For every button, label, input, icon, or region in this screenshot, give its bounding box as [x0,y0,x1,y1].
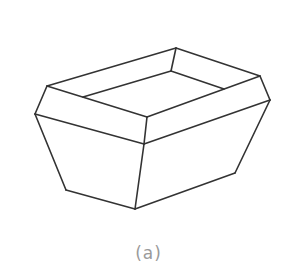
edge-inner_back-inner_right [171,71,224,89]
edge-front_top-front_mid [144,117,147,144]
figure-caption: (a) [0,243,297,263]
edge-bottom_front-bottom_right [135,173,235,209]
edge-top_left-top_back [47,48,176,86]
box-line-drawing [0,0,297,278]
edge-front_top-top_left [47,86,147,117]
edge-top_left-left_far [35,86,47,114]
edge-front_mid-right_far [144,100,270,144]
edge-inner_back-inner_left [83,71,171,97]
edge-left_far-front_mid [35,114,144,144]
edge-top_back-inner_back [171,48,176,71]
edge-top_right-right_far [260,76,270,100]
edge-top_back-top_right [176,48,260,76]
edge-front_mid-bottom_front [135,144,144,209]
edge-bottom_left-bottom_front [66,190,135,209]
edge-left_far-bottom_left [35,114,66,190]
